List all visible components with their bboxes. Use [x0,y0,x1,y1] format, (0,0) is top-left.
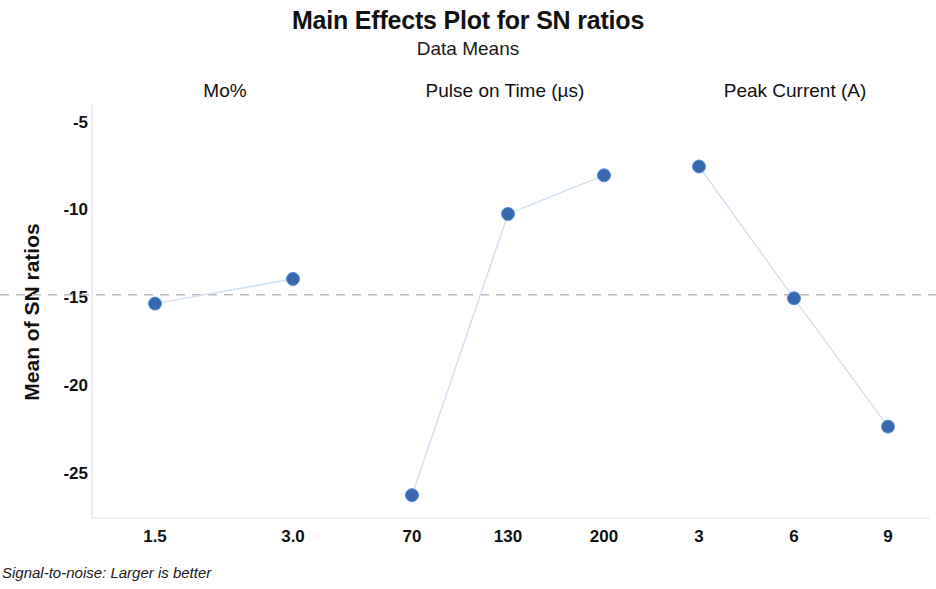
plot-area [0,0,936,589]
data-point-p3-3 [882,420,895,433]
data-point-p3-2 [788,292,801,305]
data-point-p2-3 [598,169,611,182]
data-point-p1-1 [149,297,162,310]
series-line-panel-1 [155,279,293,304]
chart-footnote: Signal-to-noise: Larger is better [2,564,211,581]
series-line-panel-2 [412,175,604,495]
data-point-p1-2 [287,272,300,285]
data-point-p2-2 [502,207,515,220]
data-point-p3-1 [693,160,706,173]
data-point-p2-1 [406,489,419,502]
main-effects-chart: Main Effects Plot for SN ratios Data Mea… [0,0,936,589]
